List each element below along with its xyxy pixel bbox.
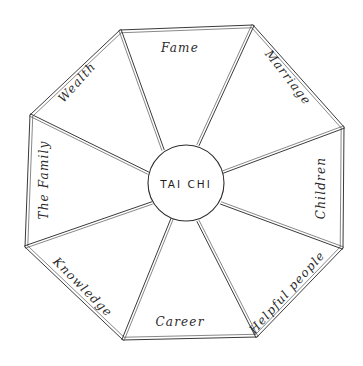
octagon-edge [25, 115, 30, 247]
spoke-bottom-right [199, 220, 258, 336]
section-label-helpful-people: Helpful people [246, 248, 328, 337]
section-label-career: Career [155, 315, 204, 329]
bagua-diagram: TAI CHI Fame Marriage Children Helpful p… [0, 0, 363, 366]
section-label-marriage: Marriage [262, 46, 314, 108]
section-label-fame: Fame [160, 41, 199, 55]
octagon-edge [257, 248, 343, 337]
octagon-edge [120, 25, 253, 30]
octagon-edge [25, 247, 123, 340]
spoke-bottom-right [197, 222, 256, 338]
section-label-children: Children [314, 157, 328, 219]
octagon-edge-inner [28, 116, 33, 246]
octagon-edge [253, 25, 344, 127]
center-hub: TAI CHI [148, 145, 224, 221]
octagon-edge [30, 30, 120, 115]
section-label-knowledge: Knowledge [49, 254, 115, 320]
octagon-edge-inner [340, 128, 341, 247]
octagon-edge-inner [121, 28, 252, 33]
octagon-edge-inner [28, 246, 124, 337]
center-label: TAI CHI [159, 178, 212, 190]
spoke-top [119, 30, 162, 150]
octagon-edge [123, 337, 257, 340]
spoke-top-right [199, 25, 254, 145]
section-label-wealth: Wealth [55, 59, 98, 105]
spoke-top [121, 30, 164, 150]
octagon-edge-inner [124, 334, 256, 337]
spoke-top-right [197, 25, 252, 145]
section-label-the-family: The Family [37, 140, 51, 219]
octagon-edge [343, 127, 344, 248]
